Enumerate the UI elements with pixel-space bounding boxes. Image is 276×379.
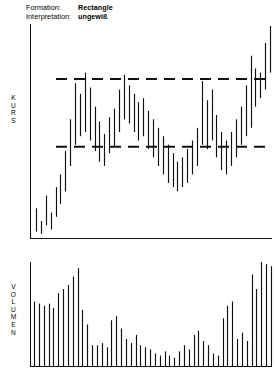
volume-panel (30, 262, 272, 367)
price-panel (30, 24, 272, 239)
volume-bars-group (35, 262, 272, 366)
chart-canvas (0, 0, 276, 379)
chart-figure: Formation: Rectangle Interpretation: ung… (0, 0, 276, 379)
price-bars-group (37, 26, 271, 234)
